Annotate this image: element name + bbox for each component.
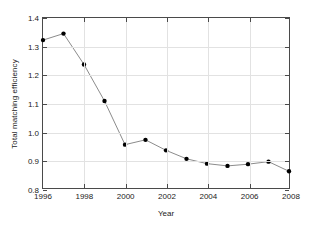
x-axis-label: Year bbox=[42, 209, 290, 219]
y-axis-tick bbox=[43, 133, 47, 134]
x-axis-tick-top bbox=[167, 18, 168, 22]
y-axis-tick-right bbox=[285, 47, 289, 48]
x-axis-tick-top bbox=[250, 18, 251, 22]
y-axis-tick bbox=[43, 75, 47, 76]
x-axis-tick-top bbox=[84, 18, 85, 22]
plot-area: 0.80.91.01.11.21.31.41996199820002002200… bbox=[42, 17, 290, 189]
y-axis-tick-label: 1.0 bbox=[28, 128, 39, 137]
x-axis-tick-label: 1996 bbox=[34, 192, 52, 201]
y-axis-tick-label: 1.3 bbox=[28, 42, 39, 51]
data-point-marker bbox=[287, 169, 291, 173]
data-point-marker bbox=[41, 38, 45, 42]
x-axis-tick-label: 2004 bbox=[199, 192, 217, 201]
y-axis-tick-label: 1.1 bbox=[28, 100, 39, 109]
gridline-horizontal bbox=[43, 75, 289, 76]
gridline-horizontal bbox=[43, 47, 289, 48]
y-axis-tick-label: 1.4 bbox=[28, 14, 39, 23]
y-axis-tick bbox=[43, 47, 47, 48]
gridline-vertical bbox=[250, 18, 251, 188]
gridline-horizontal bbox=[43, 161, 289, 162]
y-axis-tick bbox=[43, 18, 47, 19]
y-axis-tick-right bbox=[285, 161, 289, 162]
x-axis-tick bbox=[208, 184, 209, 188]
y-axis-label: Total matching efficiency bbox=[8, 18, 22, 190]
y-axis-tick bbox=[43, 104, 47, 105]
series-line-markers bbox=[43, 18, 289, 188]
y-axis-tick-right bbox=[285, 190, 289, 191]
x-axis-tick-label: 2008 bbox=[282, 192, 300, 201]
x-axis-tick-label: 1998 bbox=[75, 192, 93, 201]
gridline-horizontal bbox=[43, 104, 289, 105]
data-point-marker bbox=[143, 138, 147, 142]
chart-figure: Total matching efficiency 0.80.91.01.11.… bbox=[0, 0, 309, 228]
y-axis-tick bbox=[43, 190, 47, 191]
gridline-vertical bbox=[126, 18, 127, 188]
x-axis-tick bbox=[250, 184, 251, 188]
y-axis-tick-label: 1.2 bbox=[28, 71, 39, 80]
data-point-marker bbox=[102, 99, 106, 103]
x-axis-tick-label: 2006 bbox=[241, 192, 259, 201]
x-axis-tick-top bbox=[208, 18, 209, 22]
y-axis-tick-right bbox=[285, 133, 289, 134]
x-axis-tick bbox=[167, 184, 168, 188]
x-axis-tick bbox=[84, 184, 85, 188]
data-point-marker bbox=[61, 31, 65, 35]
x-axis-tick-label: 2002 bbox=[158, 192, 176, 201]
y-axis-tick-right bbox=[285, 18, 289, 19]
x-axis-tick bbox=[126, 184, 127, 188]
gridline-vertical bbox=[208, 18, 209, 188]
x-axis-tick-top bbox=[126, 18, 127, 22]
gridline-vertical bbox=[84, 18, 85, 188]
data-point-marker bbox=[184, 157, 188, 161]
gridline-vertical bbox=[167, 18, 168, 188]
gridline-horizontal bbox=[43, 133, 289, 134]
y-axis-tick-right bbox=[285, 104, 289, 105]
data-point-marker bbox=[225, 164, 229, 168]
x-axis-tick-label: 2000 bbox=[117, 192, 135, 201]
y-axis-tick bbox=[43, 161, 47, 162]
y-axis-tick-label: 0.9 bbox=[28, 157, 39, 166]
y-axis-tick-right bbox=[285, 75, 289, 76]
